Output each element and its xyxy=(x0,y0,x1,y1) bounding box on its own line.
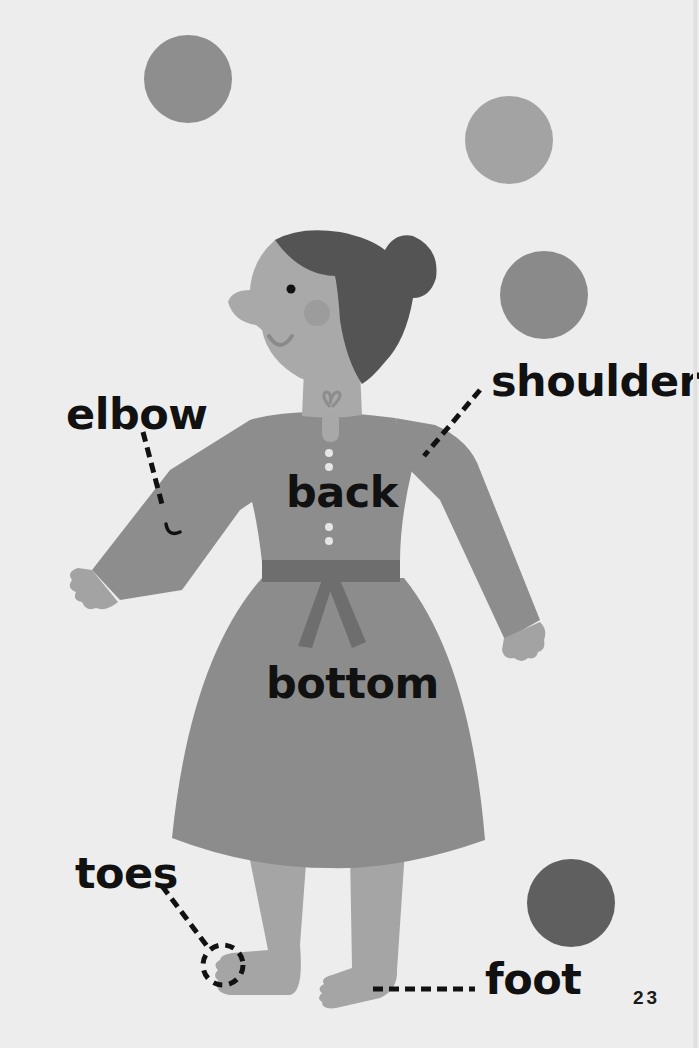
label-foot: foot xyxy=(485,958,581,1001)
label-shoulder: shoulder xyxy=(491,360,699,403)
legs xyxy=(215,850,405,1008)
ball-3 xyxy=(500,251,588,339)
ball-2 xyxy=(465,96,553,184)
skirt xyxy=(172,578,485,868)
label-bottom: bottom xyxy=(266,662,439,705)
head xyxy=(228,230,437,385)
label-elbow: elbow xyxy=(66,393,207,436)
ball-1 xyxy=(144,35,232,123)
cheek xyxy=(304,300,330,326)
ball-4 xyxy=(527,859,615,947)
label-back: back xyxy=(286,471,398,514)
eye xyxy=(287,285,296,294)
placket xyxy=(322,412,339,442)
belt xyxy=(262,560,400,582)
label-toes: toes xyxy=(75,852,178,895)
page-number: 23 xyxy=(633,987,660,1009)
page-edge xyxy=(693,0,697,1048)
